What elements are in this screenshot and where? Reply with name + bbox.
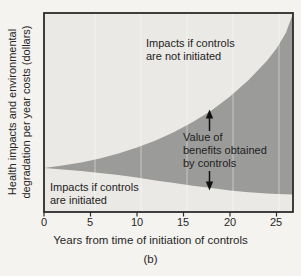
annotation-with-controls-line1: Impacts if controls: [50, 181, 139, 194]
annotation-benefit-value: Value of benefits obtained by controls: [183, 131, 267, 170]
y-axis-label-line2: degradation per year costs (dollars): [20, 0, 34, 242]
annotation-with-controls-line2: are initiated: [50, 194, 139, 207]
y-axis-label: Health impacts and environmental degrada…: [6, 0, 34, 242]
y-axis-label-line1: Health impacts and environmental: [6, 0, 20, 242]
annotation-no-controls-line2: are not initiated: [146, 50, 235, 63]
figure-pollution-control-benefits-chart: Health impacts and environmental degrada…: [0, 0, 301, 276]
x-tick-label-10: 10: [131, 216, 143, 228]
x-tick-label-25: 25: [270, 216, 282, 228]
annotation-with-controls: Impacts if controls are initiated: [50, 181, 139, 207]
annotation-no-controls-line1: Impacts if controls: [146, 37, 235, 50]
x-tick-label-0: 0: [41, 216, 47, 228]
x-tick-label-15: 15: [177, 216, 189, 228]
x-axis-label: Years from time of initiation of control…: [0, 234, 301, 246]
annotation-no-controls: Impacts if controls are not initiated: [146, 37, 235, 63]
annotation-benefit-value-line1: Value of: [183, 131, 267, 144]
annotation-benefit-value-line3: by controls: [183, 157, 267, 170]
subfigure-label: (b): [0, 253, 301, 265]
annotation-benefit-value-line2: benefits obtained: [183, 144, 267, 157]
x-tick-label-20: 20: [224, 216, 236, 228]
x-tick-label-5: 5: [87, 216, 93, 228]
